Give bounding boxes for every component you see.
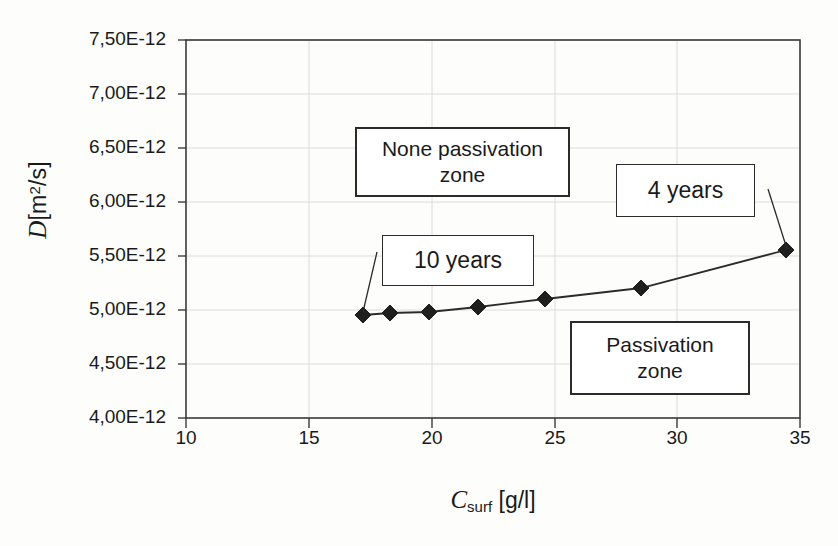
y-axis-unit-base: [m — [25, 195, 51, 221]
annotation-line: Passivation — [606, 332, 713, 358]
data-point — [470, 299, 486, 315]
leader-line-four-years — [768, 189, 787, 249]
data-point — [382, 305, 398, 321]
annotation-passivation-zone: Passivation zone — [570, 321, 750, 395]
data-point — [421, 304, 437, 320]
chart-figure: 7,50E-12 7,00E-12 6,50E-12 6,00E-12 5,50… — [0, 0, 838, 546]
y-axis-ticks — [178, 40, 186, 418]
y-axis-unit-exponent: 2 — [26, 186, 43, 195]
annotation-ten-years: 10 years — [382, 235, 534, 286]
x-axis-ticks — [186, 418, 800, 428]
y-axis-symbol: D — [24, 221, 51, 239]
leader-line-ten-years — [363, 252, 377, 312]
y-axis-title: D[m2/s] — [24, 110, 52, 290]
x-axis-unit: [g/l] — [499, 487, 536, 513]
annotation-four-years: 4 years — [616, 164, 755, 217]
annotation-none-passivation-zone: None passivation zone — [355, 127, 570, 197]
annotation-line: None passivation — [382, 136, 543, 162]
x-axis-symbol: C — [450, 486, 467, 513]
x-axis-subscript: surf — [467, 498, 492, 515]
annotation-line: zone — [440, 162, 486, 188]
data-point — [633, 280, 649, 296]
annotation-line: 10 years — [414, 246, 502, 274]
data-point — [537, 291, 553, 307]
annotation-line: 4 years — [648, 176, 723, 204]
y-axis-unit-tail: /s] — [25, 161, 51, 186]
x-axis-title: Csurf [g/l] — [186, 486, 800, 515]
annotation-line: zone — [637, 358, 683, 384]
